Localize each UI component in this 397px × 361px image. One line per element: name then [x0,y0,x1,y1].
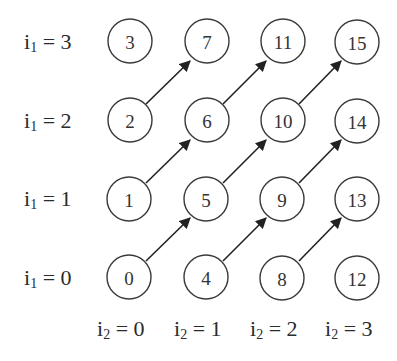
nodes: 3 7 11 15 2 6 10 14 1 5 9 13 0 4 8 12 [107,19,379,300]
svg-text:5: 5 [201,190,211,211]
node-0: 0 [107,255,151,299]
node-6: 6 [185,98,229,142]
arrow-5-to-10 [223,140,266,183]
svg-text:3: 3 [125,32,135,53]
node-15: 15 [335,20,379,64]
row-label-i1-0: i1 = 0 [24,265,72,291]
row-labels: i1 = 3 i1 = 2 i1 = 1 i1 = 0 [24,29,72,291]
node-14: 14 [335,99,379,143]
svg-text:11: 11 [274,32,292,53]
dependency-arrows [146,61,341,261]
svg-text:15: 15 [348,33,367,54]
row-label-i1-2: i1 = 2 [24,108,72,134]
svg-text:9: 9 [277,190,287,211]
svg-text:0: 0 [124,268,134,289]
row-label-i1-1: i1 = 1 [24,186,72,212]
svg-text:10: 10 [274,111,293,132]
svg-text:6: 6 [202,111,212,132]
svg-text:2: 2 [125,111,135,132]
svg-text:8: 8 [277,269,287,290]
node-2: 2 [108,98,152,142]
arrow-4-to-9 [223,218,266,261]
node-12: 12 [335,256,379,300]
svg-text:1: 1 [124,190,134,211]
arrow-8-to-13 [299,218,341,261]
svg-text:13: 13 [348,190,367,211]
node-3: 3 [108,19,152,63]
arrow-1-to-6 [146,140,190,183]
node-13: 13 [335,177,379,221]
node-5: 5 [184,177,228,221]
node-10: 10 [261,98,305,142]
node-11: 11 [261,19,305,63]
row-label-i1-3: i1 = 3 [24,29,72,55]
node-8: 8 [260,256,304,300]
col-label-i2-3: i2 = 3 [325,316,373,342]
col-label-i2-2: i2 = 2 [250,316,298,342]
svg-text:7: 7 [202,32,212,53]
arrow-10-to-15 [299,61,341,104]
svg-text:4: 4 [201,268,211,289]
svg-text:12: 12 [348,269,367,290]
svg-text:14: 14 [348,112,368,133]
arrow-9-to-14 [299,140,341,183]
iteration-space-diagram: i1 = 3 i1 = 2 i1 = 1 i1 = 0 i2 = 0 i2 = … [0,0,397,361]
col-label-i2-0: i2 = 0 [97,316,145,342]
node-9: 9 [260,177,304,221]
arrow-2-to-7 [146,61,190,104]
node-7: 7 [185,19,229,63]
col-label-i2-1: i2 = 1 [174,316,222,342]
arrow-6-to-11 [223,61,266,104]
node-1: 1 [107,177,151,221]
col-labels: i2 = 0 i2 = 1 i2 = 2 i2 = 3 [97,316,373,342]
node-4: 4 [184,255,228,299]
arrow-0-to-5 [146,218,190,261]
